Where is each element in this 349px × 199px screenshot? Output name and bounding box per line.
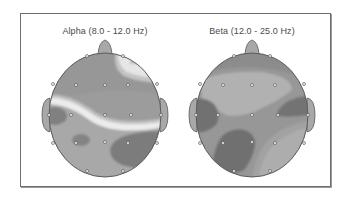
alpha-electrode bbox=[70, 114, 73, 117]
beta-electrode bbox=[269, 55, 272, 58]
beta-electrode bbox=[307, 114, 310, 117]
alpha-head bbox=[42, 40, 168, 180]
alpha-electrode bbox=[156, 142, 159, 145]
beta-electrode bbox=[303, 83, 306, 86]
alpha-electrode bbox=[104, 84, 107, 87]
beta-nose bbox=[245, 40, 259, 54]
beta-electrode bbox=[222, 84, 225, 87]
beta-electrode bbox=[251, 114, 254, 117]
alpha-nose bbox=[98, 40, 112, 54]
alpha-electrode bbox=[127, 142, 130, 145]
beta-electrode bbox=[217, 114, 220, 117]
beta-electrode bbox=[303, 142, 306, 145]
beta-electrode bbox=[251, 84, 254, 87]
alpha-electrode bbox=[122, 170, 125, 173]
alpha-electrode bbox=[104, 141, 107, 144]
alpha-electrode bbox=[160, 114, 163, 117]
alpha-electrode bbox=[86, 170, 89, 173]
beta-electrode bbox=[199, 83, 202, 86]
alpha-electrode bbox=[156, 83, 159, 86]
alpha-electrode bbox=[48, 114, 51, 117]
beta-electrode bbox=[233, 55, 236, 58]
beta-electrode bbox=[269, 170, 272, 173]
topomap-canvas bbox=[0, 0, 349, 199]
alpha-electrode bbox=[52, 142, 55, 145]
alpha-electrode bbox=[104, 114, 107, 117]
beta-head bbox=[189, 40, 315, 180]
alpha-electrode bbox=[122, 55, 125, 58]
alpha-electrode bbox=[86, 55, 89, 58]
beta-electrode bbox=[222, 142, 225, 145]
beta-electrode bbox=[277, 114, 280, 117]
alpha-electrode bbox=[75, 84, 78, 87]
beta-electrode bbox=[251, 141, 254, 144]
alpha-electrode bbox=[130, 114, 133, 117]
beta-electrode bbox=[233, 170, 236, 173]
alpha-electrode bbox=[127, 84, 130, 87]
beta-electrode bbox=[195, 114, 198, 117]
beta-electrode bbox=[199, 142, 202, 145]
alpha-electrode bbox=[75, 142, 78, 145]
beta-electrode bbox=[274, 84, 277, 87]
alpha-electrode bbox=[52, 83, 55, 86]
beta-electrode bbox=[274, 142, 277, 145]
